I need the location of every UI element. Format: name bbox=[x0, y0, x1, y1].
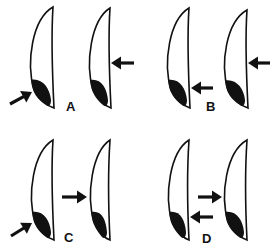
arrow-left-icon bbox=[190, 211, 213, 224]
lens bbox=[225, 10, 248, 108]
arrow-left-icon bbox=[111, 57, 134, 70]
lens bbox=[91, 140, 110, 240]
lens bbox=[31, 7, 54, 108]
panel-c bbox=[11, 140, 110, 240]
arrow-left-icon bbox=[248, 57, 270, 70]
lens-diagram bbox=[0, 0, 278, 250]
arrow-up-right-icon bbox=[10, 91, 32, 104]
panel-a bbox=[10, 7, 134, 108]
arrow-right-icon bbox=[198, 191, 222, 204]
lens bbox=[32, 140, 54, 240]
arrow-left-icon bbox=[191, 82, 213, 95]
lens bbox=[168, 8, 190, 108]
lens bbox=[225, 140, 247, 240]
panel-b bbox=[168, 8, 270, 108]
lens bbox=[90, 8, 111, 108]
panel-d bbox=[169, 140, 247, 240]
arrow-right-icon bbox=[62, 191, 87, 204]
lens bbox=[169, 140, 189, 240]
arrow-up-right-icon bbox=[11, 223, 32, 236]
